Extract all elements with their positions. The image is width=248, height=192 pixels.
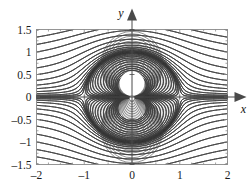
- y-tick-label: 1.5: [17, 24, 32, 36]
- x-tick-label: 0: [129, 169, 135, 181]
- x-tick-label: –1: [78, 169, 91, 181]
- x-tick-label: 2: [225, 169, 231, 181]
- contour-plot-svg: –2–10121.510.50–0.5–1–1.5xy: [0, 0, 248, 192]
- y-tick-label: 0.5: [17, 69, 32, 81]
- x-tick-label: 1: [177, 169, 183, 181]
- y-tick-label: –0.5: [10, 114, 31, 126]
- y-tick-label: 1: [26, 46, 32, 58]
- y-tick-label: –1: [19, 136, 32, 148]
- y-tick-label: –1.5: [10, 159, 31, 171]
- contour-figure: –2–10121.510.50–0.5–1–1.5xy: [0, 0, 248, 192]
- x-axis-label: x: [240, 102, 247, 116]
- y-tick-label: 0: [26, 91, 32, 103]
- x-tick-label: –2: [30, 169, 43, 181]
- y-axis-label: y: [117, 6, 124, 20]
